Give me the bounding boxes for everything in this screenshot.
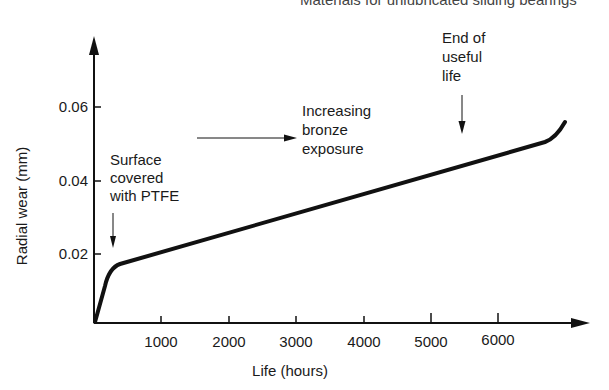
svg-text:bronze: bronze [302,121,348,138]
annotation-ptfe: Surface covered with PTFE [109,151,179,248]
x-tick-label: 1000 [144,333,177,350]
x-tick-label: 5000 [414,333,447,350]
svg-text:Increasing: Increasing [302,102,371,119]
svg-text:useful: useful [442,48,482,65]
x-tick-label: 4000 [347,333,380,350]
x-tick-label: 6000 [481,331,514,348]
svg-text:End of: End of [442,29,486,46]
y-axis-label: Radial wear (mm) [13,147,30,265]
svg-text:Surface: Surface [110,151,162,168]
down-arrow-icon [110,236,116,248]
down-arrow-icon [459,121,466,134]
wear-chart: 0.02 0.04 0.06 1000 2000 3000 4000 5000 … [0,0,609,390]
annotation-end-of-life: End of useful life [442,29,486,134]
x-tick-label: 2000 [212,333,245,350]
svg-text:life: life [442,67,461,84]
x-axis-label: Life (hours) [252,362,328,379]
x-tick-label: 3000 [279,333,312,350]
right-arrow-icon [284,135,297,142]
x-ticks: 1000 2000 3000 4000 5000 6000 [144,313,514,350]
y-tick-label: 0.06 [59,98,88,115]
y-tick-label: 0.04 [59,172,88,189]
svg-text:with PTFE: with PTFE [109,187,179,204]
x-axis-arrow-icon [571,318,590,328]
y-axis-arrow-icon [89,36,99,55]
svg-text:covered: covered [110,169,163,186]
svg-text:exposure: exposure [302,140,364,157]
y-tick-label: 0.02 [59,245,88,262]
annotation-bronze: Increasing bronze exposure [197,102,371,157]
